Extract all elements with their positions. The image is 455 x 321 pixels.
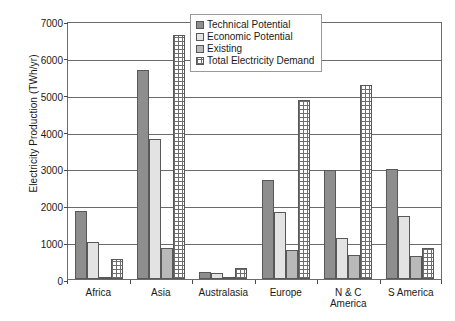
legend-label-existing: Existing: [207, 43, 242, 55]
legend-label-economic-potential: Economic Potential: [207, 31, 293, 43]
x-axis-tick-label: N & CAmerica: [317, 280, 380, 321]
x-axis-tick-label: Asia: [130, 280, 193, 321]
x-axis-tick-label-line: Europe: [255, 287, 318, 298]
bar: [274, 212, 286, 279]
x-axis-tick-mark: [67, 280, 68, 284]
y-axis-tick-label: 7000: [41, 18, 63, 29]
x-axis-tick-label-line: Australasia: [192, 287, 255, 298]
legend-swatch-icon-total-electricity-demand: [196, 57, 204, 65]
x-axis-tick-label-line: S America: [380, 287, 443, 298]
x-axis-tick-label: S America: [380, 280, 443, 321]
x-axis-tick-mark: [130, 280, 131, 284]
legend-swatch-icon-technical-potential: [196, 21, 204, 29]
bar: [410, 256, 422, 279]
legend-item-existing: Existing: [196, 43, 314, 55]
x-axis-tick-label: Australasia: [192, 280, 255, 321]
legend-label-total-electricity-demand: Total Electricity Demand: [207, 55, 314, 67]
bar-group: [379, 23, 441, 279]
bar: [324, 170, 336, 279]
x-axis-tick-mark: [317, 280, 318, 284]
bar: [99, 277, 111, 279]
x-axis-tick-mark: [192, 280, 193, 284]
y-axis-tick-label: 2000: [41, 202, 63, 213]
y-axis-tick-label: 3000: [41, 165, 63, 176]
x-axis-tick-labels: AfricaAsiaAustralasiaEuropeN & CAmericaS…: [67, 280, 442, 321]
bar: [422, 248, 434, 279]
bar: [161, 248, 173, 279]
y-axis-tick-label: 4000: [41, 128, 63, 139]
bar: [262, 180, 274, 279]
bar: [360, 85, 372, 279]
bar-chart: Electricity Production (TWh/yr) 01000200…: [0, 0, 455, 321]
bar: [75, 211, 87, 279]
legend-item-total-electricity-demand: Total Electricity Demand: [196, 55, 314, 67]
bar: [223, 277, 235, 279]
x-axis-tick-mark: [255, 280, 256, 284]
legend-swatch-icon-existing: [196, 45, 204, 53]
legend-label-technical-potential: Technical Potential: [207, 19, 290, 31]
y-axis-tick-label: 1000: [41, 239, 63, 250]
bar: [173, 35, 185, 279]
bar: [336, 238, 348, 279]
legend-swatch-icon-economic-potential: [196, 33, 204, 41]
bar: [398, 216, 410, 279]
bar: [149, 139, 161, 279]
x-axis-tick-label-line: N & C: [317, 287, 380, 298]
bar-group: [68, 23, 130, 279]
x-axis-tick-label-line: America: [317, 298, 380, 309]
y-axis-tick-label: 0: [57, 276, 63, 287]
bar: [348, 255, 360, 279]
x-axis-tick-mark: [380, 280, 381, 284]
bar-group: [130, 23, 192, 279]
bar: [235, 268, 247, 279]
bar: [87, 242, 99, 279]
bar: [137, 70, 149, 279]
x-axis-tick-mark: [441, 280, 442, 284]
x-axis-tick-label: Africa: [67, 280, 130, 321]
x-axis-tick-label-line: Asia: [130, 287, 193, 298]
legend-item-economic-potential: Economic Potential: [196, 31, 314, 43]
bar: [111, 259, 123, 279]
bar: [211, 273, 223, 279]
bar: [199, 272, 211, 279]
bar: [386, 169, 398, 279]
y-axis-tick-label: 6000: [41, 54, 63, 65]
y-axis-title: Electricity Production (TWh/yr): [28, 0, 39, 249]
bar: [286, 250, 298, 279]
chart-legend: Technical Potential Economic Potential E…: [190, 14, 322, 72]
bar: [298, 100, 310, 279]
y-axis-tick-label: 5000: [41, 91, 63, 102]
bar-group: [317, 23, 379, 279]
x-axis-tick-label-line: Africa: [67, 287, 130, 298]
x-axis-tick-label: Europe: [255, 280, 318, 321]
legend-item-technical-potential: Technical Potential: [196, 19, 314, 31]
